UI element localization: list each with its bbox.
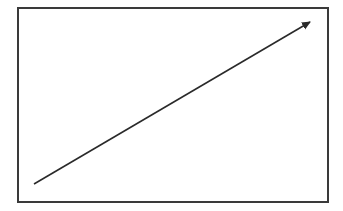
arrow-icon	[34, 22, 310, 184]
diagram-canvas	[0, 0, 343, 211]
